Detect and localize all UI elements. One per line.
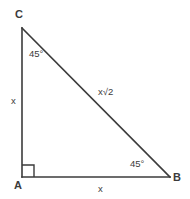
triangle-side-cb bbox=[22, 28, 170, 177]
side-label-cb: x√2 bbox=[98, 87, 113, 97]
vertex-label-c: C bbox=[15, 9, 23, 20]
angle-label-c: 45° bbox=[29, 49, 43, 59]
vertex-label-a: A bbox=[14, 180, 22, 191]
angle-label-b: 45° bbox=[130, 159, 144, 169]
triangle-drawing bbox=[0, 0, 190, 199]
vertex-label-b: B bbox=[173, 172, 181, 183]
side-label-ab: x bbox=[98, 184, 103, 194]
side-label-ac: x bbox=[11, 96, 16, 106]
geometry-diagram: C A B 45° 45° x x x√2 bbox=[0, 0, 190, 199]
right-angle-marker-icon bbox=[22, 165, 34, 177]
